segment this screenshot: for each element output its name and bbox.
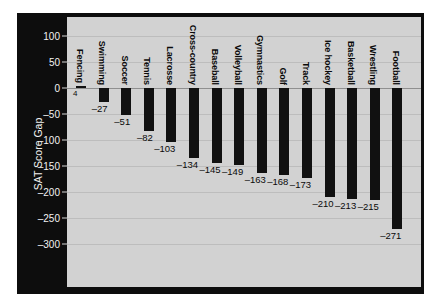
figure-frame: SAT Score Gap 100500–50–100–150–200–250–… xyxy=(17,13,424,294)
bar xyxy=(166,88,176,142)
value-label: –27 xyxy=(73,103,108,114)
gridline xyxy=(67,244,421,245)
gridline xyxy=(67,218,421,219)
gridline xyxy=(67,166,421,167)
y-tick-label: 0 xyxy=(54,83,67,94)
bar xyxy=(144,88,154,131)
gridline xyxy=(67,192,421,193)
category-label: Wrestling xyxy=(368,17,378,85)
value-label: –51 xyxy=(95,116,130,127)
value-label: –173 xyxy=(276,179,311,190)
category-label: Lacrosse xyxy=(165,17,175,85)
bar xyxy=(370,88,380,200)
y-tick-label: 50 xyxy=(49,57,67,68)
category-label: Football xyxy=(391,17,401,85)
y-tick-label: –200 xyxy=(38,187,67,198)
category-label: Swimming xyxy=(97,17,107,85)
bar xyxy=(257,88,267,173)
bar xyxy=(121,88,131,115)
category-label: Golf xyxy=(278,17,288,85)
category-label: Soccer xyxy=(120,17,130,85)
y-axis: SAT Score Gap 100500–50–100–150–200–250–… xyxy=(17,13,67,294)
bar xyxy=(212,88,222,163)
chart-page: SAT Score Gap 100500–50–100–150–200–250–… xyxy=(0,0,436,308)
value-label: –271 xyxy=(366,230,401,241)
category-label: Baseball xyxy=(210,17,220,85)
bar xyxy=(392,88,402,229)
value-label: 4 xyxy=(73,89,89,98)
y-tick-label: –50 xyxy=(43,109,67,120)
y-tick-label: –150 xyxy=(38,161,67,172)
category-label: Tennis xyxy=(142,17,152,85)
y-tick-label: 100 xyxy=(43,31,67,42)
category-label: Ice hockey xyxy=(323,17,333,85)
bar xyxy=(279,88,289,175)
plot-area: FencingSwimmingSoccerTennisLacrosseCross… xyxy=(67,17,421,287)
category-label: Volleyball xyxy=(233,17,243,85)
y-tick-label: –300 xyxy=(38,239,67,250)
value-label: –215 xyxy=(344,201,379,212)
y-tick-label: –100 xyxy=(38,135,67,146)
bar xyxy=(99,88,109,102)
bar xyxy=(325,88,335,197)
bar xyxy=(302,88,312,178)
value-label: –103 xyxy=(140,143,175,154)
bar xyxy=(234,88,244,165)
y-tick-label: –250 xyxy=(38,213,67,224)
category-label: Cross-country xyxy=(188,17,198,85)
category-label: Basketball xyxy=(346,17,356,85)
category-label: Fencing xyxy=(75,17,85,83)
category-label: Track xyxy=(301,17,311,85)
bar xyxy=(76,86,86,88)
bar xyxy=(189,88,199,158)
category-label: Gymnastics xyxy=(255,17,265,85)
bar xyxy=(347,88,357,199)
value-label: –82 xyxy=(118,132,153,143)
